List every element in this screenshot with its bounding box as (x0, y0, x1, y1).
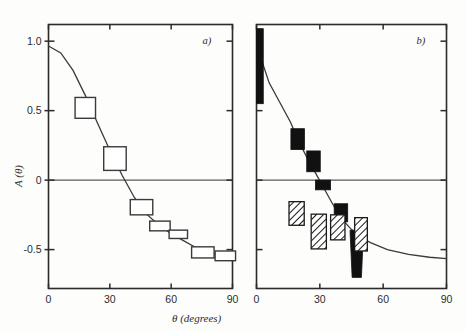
data-marker-open (169, 230, 187, 238)
y-tick-label: 0.5 (27, 104, 42, 116)
data-marker-hatched (311, 214, 326, 249)
panel-letter-label: b) (417, 35, 426, 47)
data-marker-filled (307, 151, 321, 172)
model-curve (260, 55, 447, 259)
data-marker-open (150, 221, 170, 231)
x-axis-label: θ (degrees) (172, 312, 222, 325)
data-marker-open (75, 97, 95, 118)
x-tick-label: 90 (227, 293, 239, 305)
data-marker-filled (291, 129, 305, 150)
x-tick-label: 90 (441, 293, 453, 305)
figure-container: 03060901.00.50-0.5a) 0306090b) θ (degree… (0, 0, 467, 331)
data-marker-hatched (289, 202, 304, 226)
y-axis-label: A (θ) (12, 165, 25, 188)
model-curve (49, 46, 233, 257)
data-marker-open (130, 200, 152, 215)
x-tick-label: 60 (377, 293, 389, 305)
y-tick-label: 0 (36, 174, 42, 186)
data-marker-open (192, 247, 214, 258)
x-tick-label: 30 (104, 293, 116, 305)
data-marker-filled (257, 29, 264, 104)
data-marker-open (215, 251, 235, 261)
y-tick-label: -0.5 (23, 243, 41, 255)
data-marker-filled (315, 180, 330, 190)
panel-b: 0306090b) (254, 25, 453, 305)
panel-letter-label: a) (203, 35, 212, 47)
x-tick-label: 30 (314, 293, 326, 305)
data-marker-hatched (355, 218, 368, 251)
x-tick-label: 0 (46, 293, 52, 305)
x-tick-label: 60 (165, 293, 177, 305)
data-marker-open (104, 147, 126, 171)
y-tick-label: 1.0 (27, 35, 42, 47)
data-marker-hatched (331, 215, 345, 240)
panel-a: 03060901.00.50-0.5a) (23, 25, 238, 305)
figure-svg: 03060901.00.50-0.5a) 0306090b) θ (degree… (0, 0, 467, 331)
x-tick-label: 0 (254, 293, 260, 305)
